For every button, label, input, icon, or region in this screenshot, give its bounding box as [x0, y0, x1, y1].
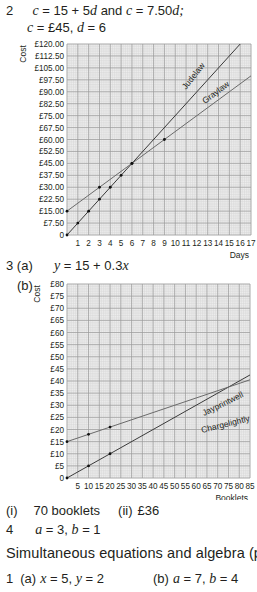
y-tick-label: £35 [50, 389, 64, 398]
x-tick-label: 80 [235, 482, 245, 491]
section-heading: Simultaneous equations and algebra (p 29… [6, 545, 257, 561]
data-point [109, 186, 112, 189]
y-tick-label: 0 [59, 474, 64, 483]
x-tick-label: 20 [106, 482, 116, 491]
x-tick-label: 15 [225, 239, 235, 248]
y-tick-label: £65 [50, 316, 64, 325]
data-point [66, 234, 69, 237]
x-tick-label: 6 [130, 239, 135, 248]
y-tick-label: £22.50 [39, 195, 64, 204]
x-tick-label: 70 [213, 482, 223, 491]
x-tick-label: 5 [75, 482, 80, 491]
y-tick-label: £30 [50, 401, 64, 410]
days-cost-chart: 0£7.50£15.00£22.50£30.00£37.50£45.00£52.… [0, 40, 257, 270]
x-tick-label: 85 [245, 482, 255, 491]
q2-line-1: 2 c = 15 + 5d and c = 7.50d; [6, 3, 184, 19]
x-tick-label: 40 [149, 482, 159, 491]
q3-answers: (i)70 booklets(ii)£36 [6, 503, 159, 518]
data-point [87, 210, 90, 213]
x-tick-label: 25 [116, 482, 126, 491]
data-point [98, 198, 101, 201]
y-tick-label: £10 [50, 450, 64, 459]
x-tick-label: 17 [246, 239, 256, 248]
x-tick-label: 35 [138, 482, 148, 491]
q2-line-2: c = £45, d = 6 [27, 20, 106, 36]
y-tick-label: £60.00 [39, 136, 64, 145]
y-tick-label: £60 [50, 329, 64, 338]
y-tick-label: £105.00 [34, 64, 64, 73]
x-tick-label: 9 [162, 239, 167, 248]
y-tick-label: £70 [50, 304, 64, 313]
q3a-line: 3 (a) y = 15 + 0.3x [6, 258, 129, 274]
y-tick-label: £5 [55, 462, 65, 471]
x-tick-label: 12 [192, 239, 202, 248]
y-tick-label: £90.00 [39, 88, 64, 97]
x-tick-label: 14 [214, 239, 224, 248]
x-tick-label: 75 [224, 482, 234, 491]
y-tick-label: £15 [50, 438, 64, 447]
y-tick-label: £112.50 [35, 52, 64, 61]
y-tick-label: £37.50 [39, 171, 64, 180]
data-point [120, 174, 123, 177]
x-tick-label: 5 [119, 239, 124, 248]
y-tick-label: £55 [50, 341, 64, 350]
y-tick-label: £25 [50, 413, 64, 422]
y-tick-label: £120.00 [34, 40, 64, 49]
y-tick-label: £75.00 [39, 112, 64, 121]
question-number: 4 [6, 522, 13, 537]
question-number: 1 [6, 571, 13, 586]
x-tick-label: 30 [127, 482, 137, 491]
y-tick-label: £52.50 [39, 147, 64, 156]
s1b-line: (b)a = 7, b = 4 [153, 571, 238, 587]
x-tick-label: 1 [76, 239, 81, 248]
booklets-cost-chart: 0£5£10£15£20£25£30£35£40£45£50£55£60£65£… [0, 275, 257, 500]
y-tick-label: £80 [50, 280, 64, 289]
x-tick-label: 50 [170, 482, 180, 491]
x-tick-label: 2 [86, 239, 91, 248]
y-tick-label: £20 [50, 426, 64, 435]
y-tick-label: £15.00 [39, 207, 64, 216]
y-tick-label: £75 [50, 292, 64, 301]
question-number: 3 (a) [6, 258, 33, 273]
y-tick-label: £67.50 [39, 124, 64, 133]
y-tick-label: 0 [59, 231, 64, 240]
x-tick-label: 11 [182, 239, 191, 248]
y-tick-label: £82.50 [39, 100, 64, 109]
data-point [66, 210, 69, 213]
x-tick-label: 16 [236, 239, 246, 248]
data-point [109, 452, 112, 455]
data-point [109, 426, 112, 429]
y-tick-label: £30.00 [39, 183, 64, 192]
data-point [66, 440, 69, 443]
data-point [76, 222, 79, 225]
x-tick-label: 13 [203, 239, 213, 248]
x-tick-label: 10 [171, 239, 181, 248]
s1-line: 1(a)x = 5, y = 2 [6, 571, 104, 587]
y-tick-label: £40 [50, 377, 64, 386]
y-axis-label: Cost [32, 285, 42, 303]
x-tick-label: 60 [192, 482, 202, 491]
data-point [131, 162, 134, 165]
x-tick-label: 4 [108, 239, 113, 248]
x-tick-label: 65 [202, 482, 212, 491]
q4-line: 4a = 3, b = 1 [6, 522, 101, 538]
x-tick-label: 45 [159, 482, 169, 491]
y-tick-label: £7.50 [44, 219, 65, 228]
x-tick-label: 8 [151, 239, 156, 248]
data-point [98, 186, 101, 189]
question-number: 2 [6, 3, 13, 18]
data-point [87, 464, 90, 467]
x-tick-label: 3 [97, 239, 102, 248]
y-tick-label: £45 [50, 365, 64, 374]
y-tick-label: £97.50 [39, 76, 64, 85]
data-point [87, 433, 90, 436]
data-point [163, 138, 166, 141]
x-tick-label: 10 [84, 482, 94, 491]
data-point [66, 477, 69, 480]
y-axis-label: Cost [18, 45, 28, 63]
x-axis-label: Booklets [215, 493, 248, 500]
x-axis-label: Days [230, 250, 249, 260]
x-tick-label: 7 [140, 239, 145, 248]
y-tick-label: £45.00 [39, 159, 64, 168]
x-tick-label: 55 [181, 482, 191, 491]
